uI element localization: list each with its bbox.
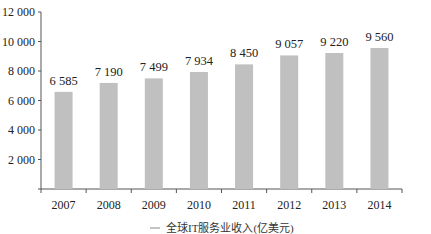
bar-chart: 2 0004 0006 0008 00010 00012 000 2007200… [0,0,431,234]
bar-value-label: 8 450 [230,46,258,60]
x-tick-label: 2012 [277,198,301,212]
x-tick-label: 2013 [322,198,346,212]
bar [280,55,298,189]
y-axis: 2 0004 0006 0008 00010 00012 000 [2,5,41,189]
bar-value-label: 9 057 [275,37,303,51]
bar [325,53,343,189]
bars: 6 5857 1907 4997 9348 4509 0579 2209 560 [50,30,394,189]
bar-value-label: 7 499 [140,60,168,74]
bar [55,92,73,189]
bar [145,78,163,189]
bar-value-label: 6 585 [50,74,78,88]
y-tick-label: 10 000 [2,35,35,49]
bar [235,64,253,189]
bar-value-label: 7 934 [185,54,214,68]
bar-value-label: 7 190 [95,65,123,79]
y-tick-label: 12 000 [2,5,35,19]
bar [370,48,388,189]
x-tick-label: 2009 [142,198,166,212]
x-tick-label: 2014 [367,198,391,212]
x-axis: 20072008200920102011201220132014 [41,189,402,212]
x-tick-label: 2011 [232,198,256,212]
y-tick-label: 8 000 [8,64,35,78]
bar [100,83,118,189]
x-tick-label: 2008 [97,198,121,212]
x-tick-label: 2010 [187,198,211,212]
y-tick-label: 2 000 [8,153,35,167]
legend-label: 全球IT服务业收入(亿美元) [166,221,294,234]
bar-value-label: 9 560 [365,30,393,44]
y-tick-label: 6 000 [8,94,35,108]
y-tick-label: 4 000 [8,123,35,137]
bar-value-label: 9 220 [320,35,348,49]
legend: 全球IT服务业收入(亿美元) [150,221,294,234]
x-tick-label: 2007 [52,198,76,212]
bar [190,72,208,189]
